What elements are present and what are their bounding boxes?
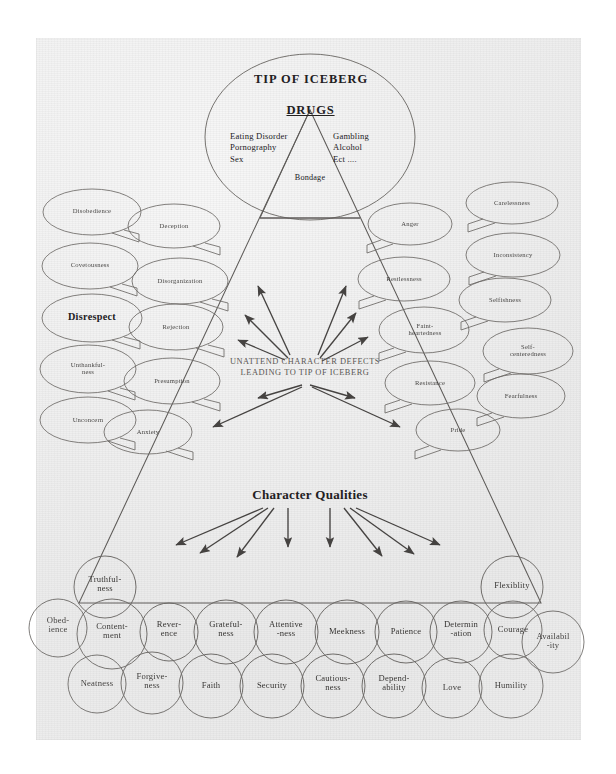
circle-truthfulness bbox=[74, 556, 136, 618]
circle-love bbox=[422, 658, 482, 718]
circle-cautiousness bbox=[301, 654, 365, 718]
circle-patience bbox=[375, 601, 437, 663]
circle-determination bbox=[430, 601, 492, 663]
bubble-restlessness bbox=[358, 257, 450, 309]
right-inner-bubbles bbox=[358, 203, 500, 459]
bubble-presumption bbox=[124, 358, 220, 411]
left-inner-bubbles bbox=[104, 204, 228, 460]
circle-neatness bbox=[68, 655, 126, 713]
qualities-arrows bbox=[176, 508, 440, 557]
bubble-carelessness bbox=[466, 182, 558, 232]
bubble-anxiety bbox=[104, 410, 193, 460]
defect-arrows bbox=[213, 286, 400, 427]
bubble-faintheartedness bbox=[379, 307, 469, 361]
bubble-anger bbox=[367, 203, 452, 253]
diagram-lineart bbox=[0, 0, 616, 774]
circle-obedience bbox=[29, 599, 87, 657]
diagram-page: TIP OF ICEBERG DRUGS Eating Disorder Por… bbox=[0, 0, 616, 774]
bubble-deception bbox=[128, 204, 220, 255]
iceberg-tip-ellipse bbox=[205, 54, 415, 220]
bubble-resistance bbox=[385, 361, 475, 413]
right-outer-bubbles bbox=[459, 182, 573, 426]
bubble-selfishness bbox=[459, 278, 551, 330]
left-outer-bubbles bbox=[40, 189, 142, 450]
bubble-inconsistency bbox=[466, 233, 560, 285]
bubble-unthankfulness bbox=[40, 345, 136, 400]
bubble-fearfulness bbox=[477, 374, 565, 426]
circle-security bbox=[240, 654, 304, 718]
tip-triangle bbox=[260, 110, 360, 218]
circle-forgiveness bbox=[121, 652, 183, 714]
bubble-covetousness bbox=[42, 243, 138, 296]
circle-dependability bbox=[362, 654, 426, 718]
circle-attentiveness bbox=[254, 600, 318, 664]
circle-meekness bbox=[315, 600, 379, 664]
bubble-rejection bbox=[129, 304, 224, 357]
bubble-unconcern bbox=[40, 397, 136, 450]
bubble-disorganization bbox=[132, 258, 228, 311]
circle-faith bbox=[179, 654, 243, 718]
bubble-disrespect bbox=[42, 294, 142, 349]
main-triangle bbox=[79, 110, 541, 603]
circle-contentment bbox=[77, 599, 147, 669]
bubble-pride bbox=[415, 409, 500, 459]
circle-courage bbox=[484, 601, 542, 659]
quality-circles bbox=[29, 556, 584, 718]
circle-availability bbox=[522, 611, 584, 673]
circle-humility bbox=[479, 654, 543, 718]
bubble-disobedience bbox=[43, 189, 141, 242]
